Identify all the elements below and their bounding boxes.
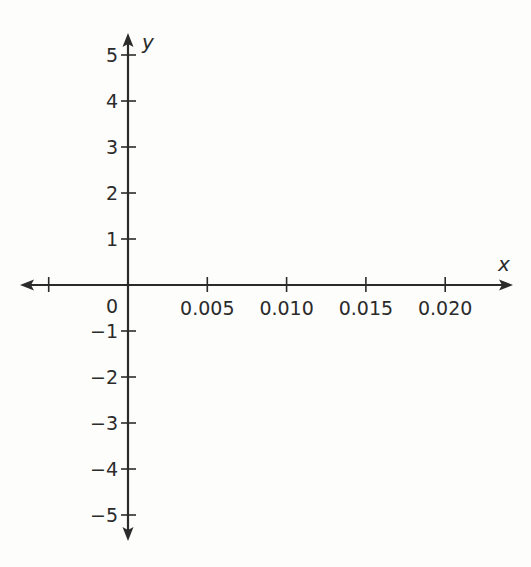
origin-label: 0: [106, 295, 118, 317]
x-axis-name: x: [497, 252, 510, 276]
coordinate-plane: 0.0050.0100.0150.02054321−1−2−3−4−50xy: [0, 0, 531, 567]
y-tick-label: 2: [106, 182, 118, 204]
y-tick-label: 1: [106, 228, 118, 250]
y-tick-label: 4: [106, 90, 118, 112]
tick-labels: 0.0050.0100.0150.02054321−1−2−3−4−50xy: [90, 30, 510, 526]
x-tick-label: 0.015: [339, 297, 393, 319]
y-tick-label: −2: [90, 366, 118, 388]
y-axis-name: y: [141, 30, 155, 54]
x-tick-label: 0.020: [418, 297, 472, 319]
y-tick-label: −1: [90, 320, 118, 342]
y-tick-label: 3: [106, 136, 118, 158]
x-tick-label: 0.010: [259, 297, 313, 319]
y-tick-label: 5: [106, 44, 118, 66]
y-tick-label: −3: [90, 412, 118, 434]
y-tick-label: −5: [90, 504, 118, 526]
y-tick-label: −4: [90, 458, 118, 480]
x-tick-label: 0.005: [180, 297, 234, 319]
